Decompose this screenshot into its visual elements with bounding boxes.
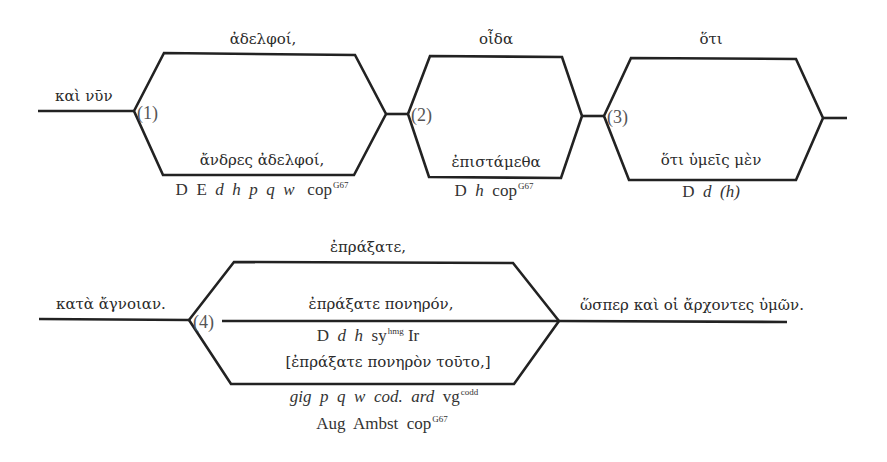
witness: q	[337, 387, 346, 406]
witness-superscript: G67	[518, 181, 534, 191]
variant-unit-number: (1)	[137, 104, 158, 122]
reading-top: οἶδα	[479, 32, 513, 47]
witness-list: D h copG67	[455, 182, 534, 199]
witness: cod.	[374, 387, 403, 406]
witness-superscript: G67	[432, 414, 448, 424]
witness: E	[196, 180, 206, 199]
reading-top: ὅτι	[699, 32, 722, 47]
lead-edge-row2	[39, 319, 189, 320]
witness: p	[320, 387, 329, 406]
reading-bottom: ὅτι ὑμεῖς μὲν	[661, 153, 762, 168]
reading-middle: ἐπράξατε πονηρόν,	[309, 297, 454, 312]
witness: cop	[307, 180, 332, 199]
witness: vg	[443, 387, 460, 406]
witness: h	[355, 326, 364, 345]
witness-list: D d h syhmg Ir	[317, 327, 420, 344]
witness: Aug	[316, 414, 345, 433]
witness: D	[455, 181, 467, 200]
reading-bottom: ἐπιστάμεθα	[451, 155, 540, 170]
variant-unit-number: (3)	[607, 108, 628, 126]
witness: h	[232, 180, 241, 199]
trail-text-row2: ὥσπερ καὶ οἱ ἄρχοντες ὑμῶν.	[580, 298, 804, 313]
witness-superscript: G67	[333, 180, 349, 190]
witness: q	[266, 180, 275, 199]
witness: w	[283, 180, 294, 199]
witness-superscript: codd	[461, 387, 479, 397]
witness-superscript: hmg	[388, 326, 404, 336]
witness: Ambst	[353, 414, 398, 433]
witness: sy	[372, 326, 387, 345]
witness: Ir	[408, 326, 419, 345]
witness-list: D d (h)	[682, 183, 740, 200]
witness: cop	[407, 414, 432, 433]
witness: ard	[411, 387, 434, 406]
reading-bottom: ἄνδρες ἀδελφοί,	[200, 153, 325, 168]
witness: d	[703, 182, 712, 201]
witness: p	[249, 180, 258, 199]
lead-text-row1: καὶ νῦν	[55, 89, 113, 104]
witness: gig	[290, 387, 312, 406]
witness: (h)	[720, 182, 740, 201]
witness-list: gig p q w cod. ard vgcodd	[290, 388, 478, 405]
witness: D	[176, 180, 188, 199]
witness: D	[682, 182, 694, 201]
trail-edge-row2	[559, 321, 787, 322]
witness-list: D E d h p q w copG67	[176, 181, 349, 198]
witness-list: Aug Ambst copG67	[316, 415, 448, 432]
witness: d	[338, 326, 347, 345]
witness: cop	[492, 181, 517, 200]
witness: d	[215, 180, 224, 199]
variant-unit-number: (2)	[411, 106, 432, 124]
lead-text-row2: κατὰ ἄγνοιαν.	[56, 297, 166, 312]
witness: w	[354, 387, 365, 406]
reading-top: ἐπράξατε,	[330, 240, 406, 255]
variant-unit-number: (4)	[193, 313, 214, 331]
witness: D	[317, 326, 329, 345]
witness: h	[475, 181, 484, 200]
reading-bottom: [ἐπράξατε πονηρὸν τοῦτο,]	[285, 355, 490, 370]
reading-top: ἀδελφοί,	[230, 32, 297, 47]
